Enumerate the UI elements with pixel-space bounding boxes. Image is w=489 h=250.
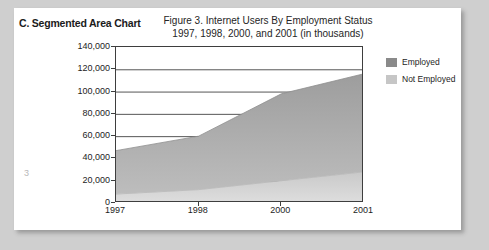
chart-legend: EmployedNot Employed	[386, 57, 456, 91]
x-axis-tick-labels: 1997199820002001	[115, 205, 363, 219]
y-axis-tick-label: 100,000	[77, 86, 110, 96]
legend-label: Not Employed	[402, 74, 455, 84]
series-areas	[116, 74, 363, 202]
y-axis-tick-label: 120,000	[77, 63, 110, 73]
legend-swatch	[386, 58, 397, 67]
y-axis-tick-label: 40,000	[82, 152, 110, 162]
x-axis-tick-label: 2000	[270, 205, 290, 215]
y-axis-tick-label: 60,000	[82, 130, 110, 140]
plot-frame	[115, 46, 363, 202]
y-axis-tick-marks	[107, 46, 115, 202]
x-axis-tick-label: 1997	[105, 205, 125, 215]
y-axis-tick-labels: 140,000120,000100,00080,00060,00040,0002…	[62, 46, 110, 202]
chart-area: 140,000120,000100,00080,00060,00040,0002…	[0, 0, 489, 250]
legend-label: Employed	[402, 57, 440, 67]
x-axis-tick-label: 1998	[188, 205, 208, 215]
y-axis-tick-label: 20,000	[82, 175, 110, 185]
legend-swatch	[386, 75, 397, 84]
x-axis-tick-label: 2001	[353, 205, 373, 215]
area-chart-plot	[116, 47, 363, 202]
legend-item[interactable]: Employed	[386, 57, 456, 67]
legend-item[interactable]: Not Employed	[386, 74, 456, 84]
y-axis-tick-label: 140,000	[77, 41, 110, 51]
y-axis-tick-label: 80,000	[82, 108, 110, 118]
